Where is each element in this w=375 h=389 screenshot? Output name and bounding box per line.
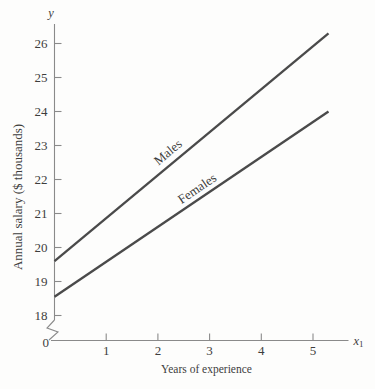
y-tick-label: 18 <box>35 308 48 323</box>
y-axis-symbol: y <box>46 6 54 20</box>
y-tick-label: 19 <box>35 274 48 289</box>
x-tick-label: 4 <box>258 343 265 358</box>
y-tick-label: 20 <box>35 240 48 255</box>
origin-label: 0 <box>43 335 50 350</box>
x-axis-title: Years of experience <box>161 363 252 376</box>
salary-vs-experience-chart: y x1 0 Annual salary ($ thousands) Years… <box>0 0 375 389</box>
y-axis-title: Annual salary ($ thousands) <box>10 124 25 270</box>
y-tick-label: 22 <box>35 172 48 187</box>
x-tick-label: 2 <box>155 343 162 358</box>
y-tick-label: 21 <box>35 206 48 221</box>
x-axis-ticks: 12345 <box>103 334 316 359</box>
y-tick-label: 26 <box>35 36 49 51</box>
series-lines: MalesFemales <box>55 33 329 297</box>
y-tick-label: 24 <box>35 104 49 119</box>
series-label-males: Males <box>151 136 185 168</box>
series-line-females <box>55 112 329 297</box>
x-tick-label: 1 <box>103 343 110 358</box>
series-line-males <box>55 33 329 261</box>
y-tick-label: 23 <box>35 138 48 153</box>
x-axis-symbol: x1 <box>353 334 364 350</box>
y-axis-ticks: 181920212223242526 <box>35 36 62 323</box>
x-tick-label: 3 <box>206 343 213 358</box>
x-tick-label: 5 <box>310 343 317 358</box>
y-tick-label: 25 <box>35 70 48 85</box>
figure-page: y x1 0 Annual salary ($ thousands) Years… <box>0 0 375 389</box>
